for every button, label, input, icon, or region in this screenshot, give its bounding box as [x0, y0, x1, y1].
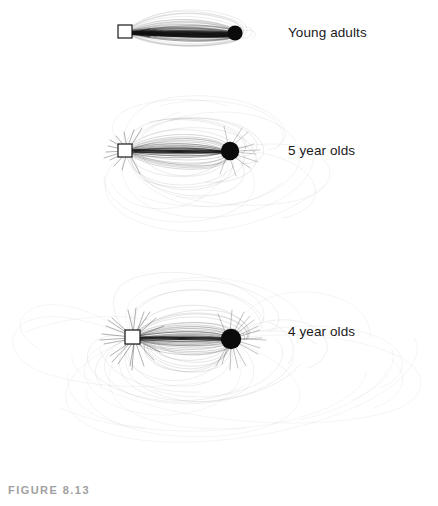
trajectory-plot-area — [0, 0, 438, 478]
start-marker-square-5-year-olds — [118, 144, 132, 157]
figure-page: Young adults 5 year olds 4 year olds FIG… — [0, 0, 438, 506]
plot-background — [0, 0, 438, 478]
panel-label-young-adults: Young adults — [288, 25, 367, 40]
figure-caption: FIGURE 8.13 — [8, 484, 90, 496]
target-marker-circle-young-adults — [227, 25, 242, 40]
target-marker-circle-4-year-olds — [221, 329, 241, 349]
start-marker-square-4-year-olds — [125, 330, 140, 344]
target-marker-circle-5-year-olds — [221, 142, 239, 160]
trajectory-traces-svg — [0, 0, 438, 478]
panel-label-4-year-olds: 4 year olds — [288, 324, 355, 339]
panel-label-5-year-olds: 5 year olds — [288, 143, 355, 158]
start-marker-square-young-adults — [118, 25, 132, 38]
